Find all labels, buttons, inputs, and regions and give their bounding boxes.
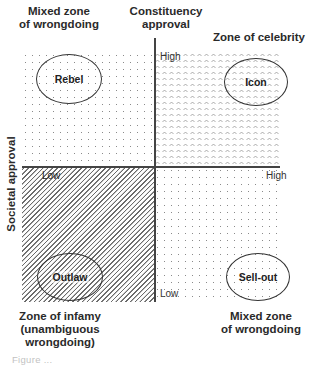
vertical-axis-low-label: Low — [160, 288, 178, 299]
horizontal-axis-high-label: High — [266, 170, 287, 181]
zone-title-line: of wrongdoing — [210, 323, 312, 336]
archetype-rebel: Rebel — [36, 54, 102, 104]
axis-title-line: Constituency — [118, 5, 214, 18]
vertical-axis-high-label: High — [160, 51, 181, 62]
zone-title-line: Mixed zone — [210, 310, 312, 323]
figure-caption-fragment: Figure ... — [12, 354, 53, 365]
archetype-sell-out: Sell-out — [226, 253, 290, 301]
archetype-icon: Icon — [224, 58, 288, 106]
archetype-label: Sell-out — [239, 271, 278, 283]
archetype-outlaw: Outlaw — [37, 253, 103, 301]
archetype-label: Rebel — [55, 73, 84, 85]
zone-title-line: (unambiguous — [10, 323, 110, 336]
zone-title-top-right: Zone of celebrity — [204, 31, 314, 44]
zone-title-bottom-right: Mixed zone of wrongdoing — [210, 310, 312, 336]
axis-title-line: approval — [118, 18, 214, 31]
zone-title-bottom-left: Zone of infamy (unambiguous wrongdoing) — [10, 310, 110, 349]
zone-title-line: wrongdoing) — [10, 336, 110, 349]
zone-title-line: Zone of celebrity — [204, 31, 314, 44]
zone-title-top-left: Mixed zone of wrongdoing — [4, 5, 114, 31]
horizontal-axis-line — [22, 166, 280, 168]
zone-title-line: of wrongdoing — [4, 18, 114, 31]
vertical-axis-line — [154, 38, 156, 302]
archetype-label: Icon — [245, 76, 267, 88]
horizontal-axis-title: Societal approval — [5, 129, 17, 239]
horizontal-axis-low-label: Low — [42, 170, 60, 181]
vertical-axis-title: Constituency approval — [118, 5, 214, 31]
archetype-label: Outlaw — [51, 271, 88, 283]
zone-title-line: Mixed zone — [4, 5, 114, 18]
zone-title-line: Zone of infamy — [10, 310, 110, 323]
